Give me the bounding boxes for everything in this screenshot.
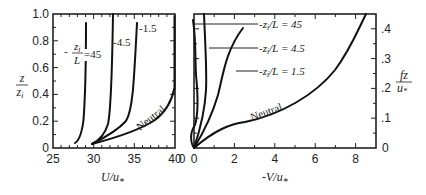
left-ytick-0.2: 0.2: [32, 114, 49, 128]
left-ylabel: z zi: [16, 71, 28, 100]
left-ytick-1.0: 1.0: [32, 7, 49, 21]
svg-text:z: z: [19, 71, 25, 85]
svg-text:=45: =45: [84, 48, 102, 60]
right-xtick-2: 2: [231, 152, 238, 166]
right-ytick-.3: .3: [381, 52, 391, 66]
svg-text:zi: zi: [73, 40, 81, 54]
right-xtick-8: 8: [352, 152, 359, 166]
svg-text:-4.5: -4.5: [113, 36, 131, 48]
right-annotation-4.5: -zi/L = 4.5: [259, 42, 305, 56]
right-ytick-.2: .2: [381, 81, 391, 95]
figure: 25 30 35 40 0 0.2 0.4 0.6 0.8 1.0 U/u* z…: [0, 0, 426, 195]
svg-text:-zi/L = 45: -zi/L = 45: [259, 18, 303, 32]
svg-text:-zi/L = 4.5: -zi/L = 4.5: [259, 42, 305, 56]
right-xtick-0: 0: [191, 152, 198, 166]
right-annotation-1.5: -zi/L = 1.5: [259, 65, 305, 79]
left-x-ticks: [53, 14, 175, 148]
right-ytick-0: 0: [382, 141, 389, 155]
svg-text:-1.5: -1.5: [139, 22, 157, 34]
right-chart: 0 2 4 6 8 0 0 .1 .2 .3 .4 -V/u* fz u*: [179, 14, 412, 187]
svg-text:zi: zi: [16, 85, 24, 100]
left-ytick-0: 0: [42, 141, 49, 155]
left-ytick-0.8: 0.8: [32, 34, 49, 48]
right-annotation-45: -zi/L = 45: [259, 18, 303, 32]
left-xtick-extra-0: 0: [179, 152, 186, 166]
svg-text:-zi/L = 1.5: -zi/L = 1.5: [259, 65, 305, 79]
right-annotation-neutral: Neutral: [249, 100, 284, 123]
right-xlabel: -V/u*: [262, 170, 288, 187]
left-plot-frame: [53, 14, 175, 148]
right-xtick-4: 4: [271, 152, 278, 166]
right-ytick-.1: .1: [381, 111, 391, 125]
svg-text:L: L: [73, 54, 80, 66]
svg-text:fz: fz: [400, 68, 408, 82]
left-xtick-35: 35: [128, 152, 142, 166]
left-xlabel: U/u*: [101, 170, 124, 187]
svg-text:-: -: [64, 45, 68, 57]
left-annotation-4.5: -4.5: [113, 36, 131, 48]
left-ytick-0.6: 0.6: [32, 61, 49, 75]
right-ylabel: fz u*: [396, 68, 412, 96]
left-xtick-30: 30: [87, 152, 101, 166]
right-xtick-6: 6: [312, 152, 319, 166]
svg-text:u*: u*: [397, 81, 407, 96]
right-ytick-.4: .4: [381, 22, 391, 36]
svg-text:U/u*: U/u*: [101, 170, 124, 187]
left-annotation-1.5: -1.5: [139, 22, 157, 34]
left-chart: 25 30 35 40 0 0.2 0.4 0.6 0.8 1.0 U/u* z…: [16, 7, 182, 187]
left-annotation-neutral: Neutral: [134, 103, 167, 133]
svg-text:-V/u*: -V/u*: [262, 170, 288, 187]
left-ytick-0.4: 0.4: [32, 87, 49, 101]
left-curve-4.5: [92, 14, 113, 144]
right-curve-neutral: [194, 14, 366, 148]
